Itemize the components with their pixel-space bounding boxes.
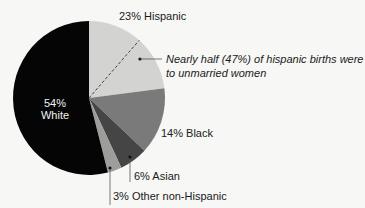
other-dot <box>108 166 111 169</box>
annotation-text-line2: to unmarried women <box>166 67 266 80</box>
slice-hispanic <box>89 21 164 98</box>
annotation-text-line1: Nearly half (47%) of hispanic births wer… <box>166 53 363 66</box>
asian-dot <box>128 155 131 158</box>
label-white-pct: 54% <box>35 97 75 109</box>
label-hispanic: 23% Hispanic <box>119 10 186 22</box>
label-white-name: White <box>30 109 80 121</box>
label-black: 14% Black <box>161 127 213 139</box>
label-other: 3% Other non-Hispanic <box>113 190 227 202</box>
label-asian: 6% Asian <box>134 170 180 182</box>
